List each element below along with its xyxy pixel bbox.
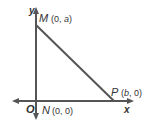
segment-mp: [36, 25, 114, 101]
point-p-coords: (b, 0): [121, 88, 142, 98]
point-p-name: P: [111, 86, 119, 98]
point-m-name: M: [39, 12, 49, 24]
triangle-diagram: y x O M (0, a) P (b, 0) N (0, 0): [0, 0, 151, 124]
x-axis-left-arrow: [12, 98, 19, 104]
point-n-coords: (0, 0): [52, 106, 73, 116]
origin-label: O: [26, 103, 35, 115]
y-axis-label: y: [28, 5, 35, 16]
point-n-name: N: [42, 104, 50, 116]
point-m-coords: (0, a): [51, 14, 72, 24]
x-axis-label: x: [123, 104, 130, 115]
